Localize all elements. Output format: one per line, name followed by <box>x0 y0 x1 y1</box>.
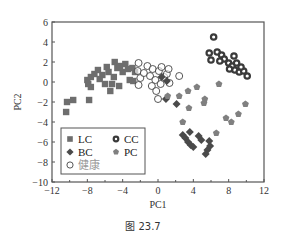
y-tick-label: 0 <box>43 77 48 88</box>
pentagon-marker <box>242 100 249 107</box>
legend-label: PC <box>124 146 137 158</box>
pentagon-marker <box>235 110 242 117</box>
pentagon-marker <box>216 80 223 87</box>
y-tick-label: 4 <box>43 37 48 48</box>
square-marker <box>95 67 101 73</box>
series-lc <box>63 59 138 115</box>
square-marker <box>63 109 69 115</box>
x-tick-label: 8 <box>226 185 231 196</box>
ring-marker <box>217 58 222 63</box>
y-tick-label: −8 <box>37 157 48 168</box>
square-marker <box>70 97 76 103</box>
diamond-marker <box>186 128 194 136</box>
pentagon-marker <box>185 87 192 94</box>
x-tick-label: −8 <box>82 185 93 196</box>
legend-label: 健康 <box>78 158 100 172</box>
pentagon-marker <box>179 118 186 125</box>
x-tick-label: 0 <box>156 185 161 196</box>
open-circle-marker <box>165 66 172 73</box>
ring-marker <box>114 137 119 142</box>
ring-marker <box>231 53 236 58</box>
y-tick-label: −10 <box>32 177 48 188</box>
ring-marker <box>245 73 250 78</box>
pentagon-marker <box>213 129 220 136</box>
legend-label: BC <box>78 146 93 158</box>
axes: −12−8−4048126420−2−4−6−8−10PC1PC2 <box>12 17 269 211</box>
x-tick-label: 4 <box>191 185 196 196</box>
square-marker <box>116 83 122 89</box>
square-marker <box>104 64 110 70</box>
pentagon-marker <box>164 92 171 99</box>
open-circle-marker <box>135 60 142 67</box>
pentagon-marker <box>176 92 183 99</box>
figure-caption: 图 23.7 <box>0 218 286 233</box>
pentagon-marker <box>186 104 193 111</box>
scatter-chart: −12−8−4048126420−2−4−6−8−10PC1PC2 LCCCBC… <box>0 0 286 215</box>
diamond-marker <box>173 100 181 108</box>
y-axis-label: PC2 <box>12 93 23 110</box>
square-marker <box>85 81 91 87</box>
open-circle-marker <box>155 96 162 103</box>
square-marker <box>109 81 115 87</box>
pentagon-marker <box>228 118 235 125</box>
open-circle-marker <box>176 73 183 80</box>
y-tick-label: −4 <box>37 117 48 128</box>
ring-marker <box>211 34 216 39</box>
square-marker <box>102 81 108 87</box>
x-tick-label: 12 <box>259 185 269 196</box>
square-marker <box>86 97 92 103</box>
y-tick-label: 6 <box>43 17 48 28</box>
series-healthy <box>134 60 183 103</box>
y-tick-label: 2 <box>43 57 48 68</box>
y-tick-label: −6 <box>37 137 48 148</box>
ring-marker <box>238 64 243 69</box>
ring-marker <box>227 66 232 71</box>
ring-marker <box>208 57 213 62</box>
open-circle-marker <box>158 64 165 71</box>
open-circle-marker <box>67 162 73 168</box>
series-bc <box>158 73 215 158</box>
open-circle-marker <box>153 88 160 95</box>
x-axis-label: PC1 <box>149 199 166 210</box>
y-tick-label: −2 <box>37 97 48 108</box>
square-marker <box>64 99 70 105</box>
legend: LCCCBCPC健康 <box>61 128 145 174</box>
x-tick-label: −4 <box>117 185 128 196</box>
pentagon-marker <box>193 83 200 90</box>
square-marker <box>67 136 73 142</box>
open-circle-marker <box>157 81 164 88</box>
ring-marker <box>207 50 212 55</box>
series-pc <box>164 80 249 135</box>
legend-label: CC <box>124 133 139 145</box>
square-marker <box>107 88 113 94</box>
pentagon-marker <box>223 114 230 121</box>
legend-label: LC <box>78 133 92 145</box>
open-circle-marker <box>135 82 142 89</box>
series-cc <box>207 34 250 78</box>
square-marker <box>111 74 117 80</box>
